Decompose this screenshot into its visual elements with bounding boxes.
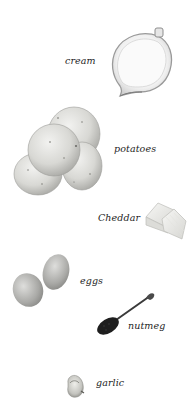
cream-label: cream [65, 55, 96, 66]
cheese-block-icon [142, 197, 188, 243]
garlic-clove-icon [64, 373, 86, 399]
cheddar-label: Cheddar [98, 212, 140, 223]
garlic-label: garlic [96, 377, 124, 388]
nutmeg-label: nutmeg [128, 320, 165, 331]
potatoes-label: potatoes [114, 143, 156, 154]
eggs-label: eggs [80, 275, 103, 286]
potatoes-icon [12, 104, 106, 196]
eggs-icon [10, 252, 74, 308]
cream-jug-icon [106, 26, 176, 98]
